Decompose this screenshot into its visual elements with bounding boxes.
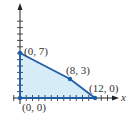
feasible-region-chart: (0, 7) (8, 3) (12, 0) (0, 0) x <box>0 0 130 114</box>
label-8-3: (8, 3) <box>66 64 90 77</box>
vertex-12-0 <box>93 96 97 100</box>
label-0-7: (0, 7) <box>24 45 48 58</box>
vertex-0-7 <box>18 51 22 55</box>
x-axis-label: x <box>120 91 126 103</box>
label-0-0: (0, 0) <box>22 101 46 114</box>
vertex-0-0 <box>18 96 22 100</box>
label-12-0: (12, 0) <box>89 82 119 95</box>
x-axis-arrow-icon <box>112 96 119 101</box>
y-axis-arrow-icon <box>18 3 23 10</box>
vertex-8-3 <box>68 77 72 81</box>
